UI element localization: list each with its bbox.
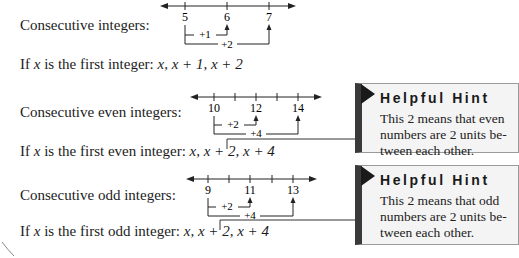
consecutive-even-label: Consecutive even integers: [20, 104, 182, 121]
hint-body: This 2 means that odd numbers are 2 unit… [380, 193, 518, 241]
left-arrow-icon [160, 3, 168, 9]
hint-connector-even [225, 138, 360, 150]
tick-label: 7 [266, 10, 272, 24]
up-arrow-icon [248, 197, 253, 203]
step-label: +2 [221, 38, 233, 50]
up-arrow-icon [291, 197, 296, 203]
tick-label: 11 [244, 183, 256, 197]
step-label: +4 [250, 127, 262, 138]
flag-icon [361, 84, 375, 104]
consecutive-integers-label: Consecutive integers: [20, 17, 150, 34]
hint-title: Helpful Hint [380, 172, 490, 188]
step-label: +2 [221, 200, 233, 212]
up-arrow-icon [267, 24, 272, 30]
hint-title: Helpful Hint [380, 90, 490, 106]
tick-label: 13 [287, 183, 299, 197]
number-line-odd: 9 11 13 +2 +4 [186, 172, 321, 220]
right-arrow-icon [309, 176, 317, 182]
hint-body: This 2 means that even numbers are 2 uni… [380, 111, 518, 159]
page-corner-curve [0, 240, 20, 258]
tick-label: 9 [205, 183, 211, 197]
number-line-consecutive: 5 6 7 +1 +2 [160, 0, 300, 52]
tick-label: 6 [224, 10, 230, 24]
right-arrow-icon [314, 94, 322, 100]
up-arrow-icon [296, 115, 301, 121]
formula-consecutive: If x is the first integer: x, x + 1, x +… [20, 56, 243, 73]
left-arrow-icon [190, 94, 198, 100]
right-arrow-icon [288, 3, 296, 9]
tick-label: 5 [182, 10, 188, 24]
tick-label: 12 [250, 101, 262, 115]
left-arrow-icon [186, 176, 194, 182]
step-label: +2 [227, 118, 239, 130]
hint-connector-odd [218, 219, 360, 231]
tick-label: 14 [292, 101, 304, 115]
flag-icon [361, 166, 375, 186]
up-arrow-icon [254, 115, 259, 121]
step-label: +1 [199, 28, 211, 40]
tick-label: 10 [208, 101, 220, 115]
helpful-hint-even: Helpful Hint This 2 means that even numb… [355, 83, 519, 153]
helpful-hint-odd: Helpful Hint This 2 means that odd numbe… [355, 165, 519, 245]
up-arrow-icon [225, 24, 230, 30]
consecutive-odd-label: Consecutive odd integers: [20, 187, 176, 204]
number-line-even: 10 12 14 +2 +4 [190, 90, 325, 138]
